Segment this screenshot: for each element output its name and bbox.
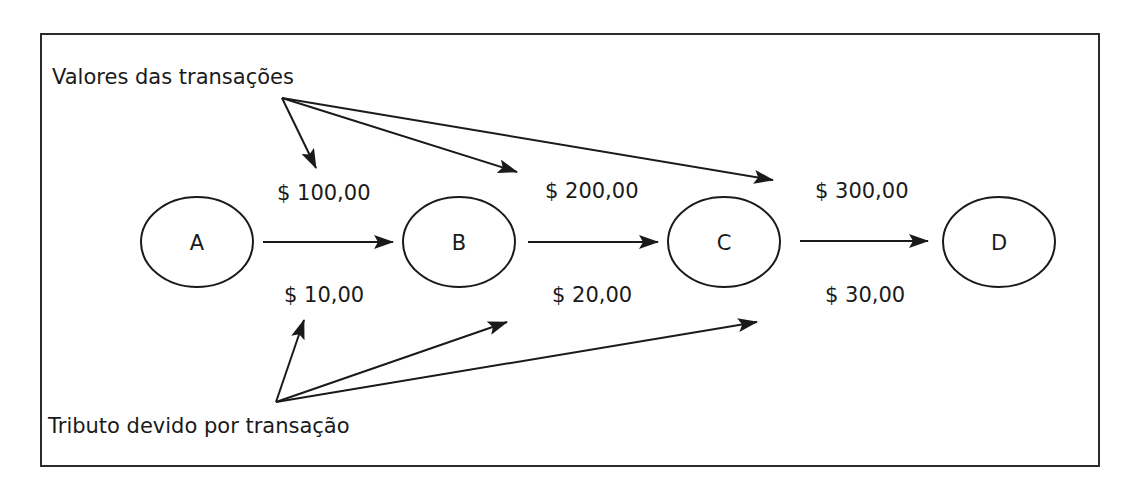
node-b: B — [403, 197, 515, 287]
pointer-arrow-icon — [282, 98, 517, 172]
transaction-value-ab: $ 100,00 — [277, 181, 371, 205]
node-d: D — [943, 197, 1055, 287]
pointer-arrow-icon — [282, 98, 316, 168]
tax-due-bc: $ 20,00 — [552, 283, 632, 307]
node-c-label: C — [717, 231, 732, 255]
tax-due-label: Tributo devido por transação — [47, 414, 350, 438]
transaction-value-pointers — [282, 98, 773, 180]
pointer-arrow-icon — [282, 98, 773, 180]
node-d-label: D — [991, 231, 1007, 255]
flow-diagram: Valores das transações $ 100,00 $ 200,00… — [0, 0, 1140, 495]
node-b-label: B — [452, 231, 466, 255]
node-a: A — [141, 197, 253, 287]
tax-due-cd: $ 30,00 — [825, 283, 905, 307]
transaction-value-bc: $ 200,00 — [545, 179, 639, 203]
tax-due-ab: $ 10,00 — [284, 283, 364, 307]
node-a-label: A — [190, 231, 205, 255]
pointer-arrow-icon — [276, 322, 507, 402]
transaction-value-cd: $ 300,00 — [815, 179, 909, 203]
pointer-arrow-icon — [276, 322, 757, 402]
diagram-canvas: Valores das transações $ 100,00 $ 200,00… — [0, 0, 1140, 495]
pointer-arrow-icon — [276, 320, 304, 402]
transaction-values-label: Valores das transações — [52, 65, 294, 89]
tax-due-pointers — [276, 320, 757, 402]
node-c: C — [668, 197, 780, 287]
